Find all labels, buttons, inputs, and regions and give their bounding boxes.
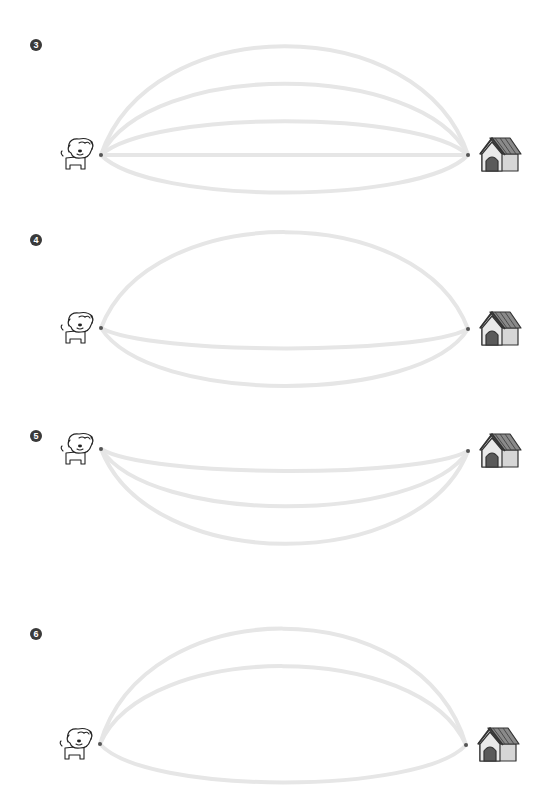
path-option-1[interactable] [100, 629, 466, 745]
path-option-2[interactable] [100, 666, 466, 745]
path-choices [0, 0, 549, 812]
doghouse-icon [474, 727, 520, 763]
start-dot [98, 742, 102, 746]
dog-icon [56, 726, 96, 762]
maze-section-6: 6 [0, 0, 549, 812]
path-option-3[interactable] [100, 744, 466, 782]
end-dot [464, 743, 468, 747]
